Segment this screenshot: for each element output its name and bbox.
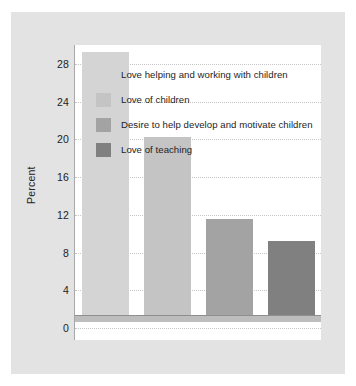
legend-item: Love helping and working with children [96,62,311,87]
figure-panel: Percent 0481216202428 Love helping and w… [11,12,345,374]
y-axis-tick-label: 28 [35,58,69,70]
bar-chart-figure: Percent 0481216202428 Love helping and w… [11,12,345,374]
x-axis-baseline-strip [75,316,321,322]
legend-swatch-icon [96,93,111,107]
legend-item: Love of teaching [96,137,311,162]
legend-swatch-icon [96,143,111,157]
legend-swatch-icon [96,118,111,132]
legend-label: Love helping and working with children [121,69,288,80]
legend-label: Desire to help develop and motivate chil… [121,119,313,130]
chart-legend: Love helping and working with childrenLo… [96,62,311,162]
plot-area: Love helping and working with childrenLo… [75,45,321,328]
y-axis-tick-label: 12 [35,209,69,221]
y-axis-tick-label: 0 [35,322,69,334]
y-axis-tick-label: 16 [35,171,69,183]
y-axis-tick-label: 4 [35,284,69,296]
legend-swatch-icon [96,68,111,82]
gridline [75,328,321,329]
bar [268,241,315,316]
y-axis-tick-label: 8 [35,247,69,259]
bar [206,219,253,316]
legend-label: Love of children [121,94,190,105]
bar [144,137,191,316]
legend-item: Love of children [96,87,311,112]
y-axis-tick-label: 20 [35,133,69,145]
legend-label: Love of teaching [121,144,192,155]
plot-area-card: Love helping and working with childrenLo… [74,45,321,340]
y-axis-tick-label: 24 [35,96,69,108]
legend-item: Desire to help develop and motivate chil… [96,112,311,137]
